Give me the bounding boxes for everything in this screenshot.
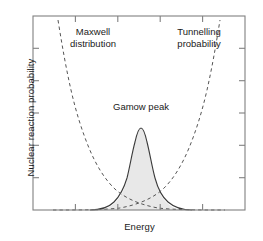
maxwell-distribution-label: Maxwell distribution [56,26,130,49]
y-axis-label: Nuclear reaction probability [25,33,36,203]
gamow-peak-label: Gamow peak [101,101,181,113]
x-axis-label: Energy [33,221,246,232]
gamow-peak-area [33,128,245,210]
x-axis-top-ticks [75,16,202,22]
tunnelling-probability-label: Tunnelling probability [158,26,240,49]
gamow-peak-figure: Nuclear reaction probability Energy Maxw… [0,0,263,241]
y-axis-right-ticks [239,48,245,177]
